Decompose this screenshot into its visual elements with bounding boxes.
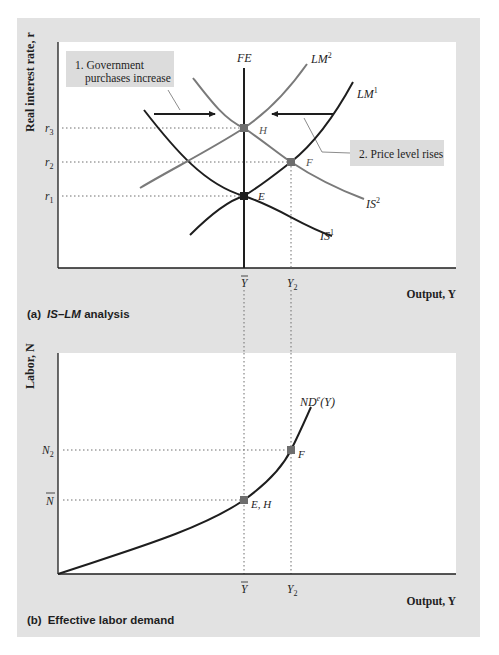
label-e: E (257, 190, 265, 202)
point-f-b (287, 446, 295, 454)
gov-purchases-line2: purchases increase (85, 72, 171, 85)
label-h: H (258, 124, 268, 136)
figure: 1. Government purchases increase 2. Pric… (0, 0, 499, 655)
caption-b: (b)Effective labor demand (27, 614, 174, 626)
label-f-b: F (297, 448, 305, 460)
plot-area-b (58, 353, 456, 574)
point-f (287, 158, 295, 166)
gov-purchases-line1: 1. Government (75, 59, 145, 71)
label-f: F (305, 156, 313, 168)
label-eh: E, H (250, 498, 272, 510)
point-eh (240, 496, 248, 504)
y-axis-title-b: Labor, N (23, 343, 37, 389)
label-fe: FE (236, 51, 252, 65)
ytick-nbar: N (45, 495, 55, 507)
x-axis-title-a: Output, Y (407, 288, 457, 301)
point-h (240, 124, 248, 132)
y-axis-title-a: Real interest rate, r (23, 32, 37, 132)
point-e (240, 192, 248, 200)
price-level-label: 2. Price level rises (359, 148, 444, 160)
x-axis-title-b: Output, Y (407, 595, 457, 608)
